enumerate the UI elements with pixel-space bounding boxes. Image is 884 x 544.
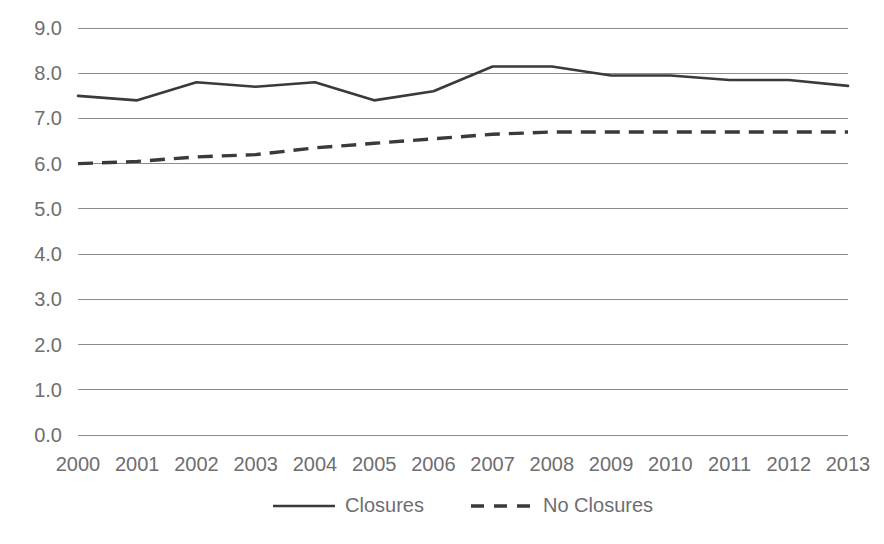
x-tick-label: 2013 (826, 453, 871, 475)
x-tick-label: 2012 (767, 453, 812, 475)
chart-legend: ClosuresNo Closures (273, 494, 653, 516)
y-tick-label: 4.0 (34, 243, 62, 265)
x-tick-label: 2004 (293, 453, 338, 475)
y-tick-label: 3.0 (34, 288, 62, 310)
x-tick-label: 2008 (530, 453, 575, 475)
chart-canvas: 0.01.02.03.04.05.06.07.08.09.0 200020012… (0, 0, 884, 544)
x-tick-label: 2010 (648, 453, 693, 475)
y-axis-tick-labels: 0.01.02.03.04.05.06.07.08.09.0 (34, 17, 62, 446)
x-tick-label: 2002 (174, 453, 219, 475)
x-tick-label: 2000 (56, 453, 101, 475)
y-tick-label: 0.0 (34, 424, 62, 446)
y-tick-label: 7.0 (34, 107, 62, 129)
y-tick-label: 9.0 (34, 17, 62, 39)
line-chart: 0.01.02.03.04.05.06.07.08.09.0 200020012… (0, 0, 884, 544)
y-tick-label: 2.0 (34, 334, 62, 356)
x-tick-label: 2003 (233, 453, 278, 475)
legend-label-closures: Closures (345, 494, 424, 516)
data-series (78, 66, 848, 163)
x-tick-label: 2007 (470, 453, 515, 475)
x-axis-tick-labels: 2000200120022003200420052006200720082009… (56, 453, 871, 475)
series-line-closures (78, 66, 848, 100)
x-tick-label: 2005 (352, 453, 397, 475)
y-tick-label: 5.0 (34, 198, 62, 220)
x-tick-label: 2006 (411, 453, 456, 475)
series-line-no-closures (78, 132, 848, 164)
y-tick-label: 8.0 (34, 62, 62, 84)
y-tick-label: 1.0 (34, 379, 62, 401)
x-tick-label: 2009 (589, 453, 634, 475)
legend-label-no-closures: No Closures (543, 494, 653, 516)
x-tick-label: 2011 (708, 453, 751, 475)
gridlines (78, 28, 848, 435)
x-tick-label: 2001 (115, 453, 160, 475)
y-tick-label: 6.0 (34, 153, 62, 175)
